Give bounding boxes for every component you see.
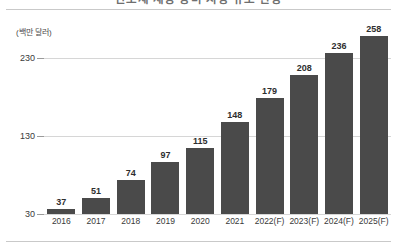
y-axis-tick: [37, 58, 44, 59]
bar-wrap: 208: [290, 75, 318, 214]
bar[interactable]: [82, 198, 110, 214]
bar-value-label: 97: [160, 150, 170, 160]
x-axis-label: 2019: [148, 216, 183, 226]
bar-wrap: 115: [186, 148, 214, 214]
chart-figure: 반도체 세정 장비 시장 규모 전망 (백만 달러) 30130230 3751…: [0, 0, 397, 252]
bar-value-label: 148: [227, 110, 242, 120]
bottom-divider: [6, 241, 391, 242]
bar-wrap: 236: [325, 53, 353, 214]
bar-item[interactable]: 51: [79, 36, 114, 214]
bar-value-label: 208: [297, 63, 312, 73]
top-divider: [6, 9, 391, 10]
bar-value-label: 37: [56, 197, 66, 207]
bar[interactable]: [151, 162, 179, 214]
bar-wrap: 97: [151, 162, 179, 214]
bar-value-label: 258: [366, 24, 381, 34]
bar-item[interactable]: 37: [44, 36, 79, 214]
bar[interactable]: [325, 53, 353, 214]
x-axis-label: 2021: [218, 216, 253, 226]
bar-item[interactable]: 97: [148, 36, 183, 214]
bar-wrap: 37: [47, 209, 75, 214]
bar-value-label: 51: [91, 186, 101, 196]
bar[interactable]: [221, 122, 249, 214]
y-axis-tick: [37, 136, 44, 137]
bar[interactable]: [186, 148, 214, 214]
bar-item[interactable]: 258: [356, 36, 391, 214]
bar-wrap: 148: [221, 122, 249, 214]
x-axis-label: 2023(F): [287, 216, 322, 226]
bar-item[interactable]: 179: [252, 36, 287, 214]
page-title: 반도체 세정 장비 시장 규모 전망: [0, 0, 397, 7]
bar-wrap: 258: [360, 36, 388, 214]
y-axis-tick: [37, 214, 44, 215]
bar-wrap: 179: [256, 98, 284, 214]
bar[interactable]: [47, 209, 75, 214]
bar[interactable]: [117, 180, 145, 214]
y-axis-tick-label: 230: [20, 53, 35, 63]
x-axis-labels: 2016201720182019202020212022(F)2023(F)20…: [44, 216, 391, 226]
bar-value-label: 236: [331, 41, 346, 51]
bar-series: 37517497115148179208236258: [44, 36, 391, 214]
bar-value-label: 115: [193, 136, 208, 146]
bar-value-label: 74: [126, 168, 136, 178]
bar[interactable]: [290, 75, 318, 214]
plot-area: 30130230 37517497115148179208236258: [44, 36, 391, 214]
bar-wrap: 51: [82, 198, 110, 214]
x-axis-label: 2022(F): [252, 216, 287, 226]
x-axis-label: 2020: [183, 216, 218, 226]
x-axis-label: 2018: [113, 216, 148, 226]
bar-wrap: 74: [117, 180, 145, 214]
bar[interactable]: [256, 98, 284, 214]
bar-item[interactable]: 115: [183, 36, 218, 214]
bar[interactable]: [360, 36, 388, 214]
bar-value-label: 179: [262, 86, 277, 96]
x-axis-label: 2017: [79, 216, 114, 226]
x-axis-label: 2025(F): [356, 216, 391, 226]
bar-item[interactable]: 208: [287, 36, 322, 214]
bar-item[interactable]: 236: [322, 36, 357, 214]
gridline: 30: [44, 214, 391, 215]
bar-item[interactable]: 148: [218, 36, 253, 214]
x-axis-label: 2016: [44, 216, 79, 226]
x-axis-label: 2024(F): [322, 216, 357, 226]
y-axis-tick-label: 30: [25, 209, 35, 219]
chart-title-clipped: 반도체 세정 장비 시장 규모 전망: [0, 0, 397, 7]
bar-item[interactable]: 74: [113, 36, 148, 214]
y-axis-tick-label: 130: [20, 131, 35, 141]
